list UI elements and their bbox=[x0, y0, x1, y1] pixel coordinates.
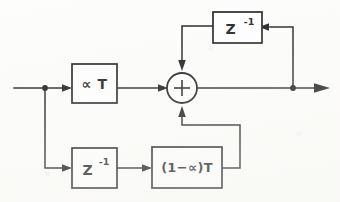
input-branch-node bbox=[42, 85, 48, 91]
block-diagram-canvas: ∝ T Z -1 Z -1 (1−∝)T bbox=[0, 0, 340, 202]
block-gain-one-minus-alpha-t[interactable]: (1−∝)T bbox=[152, 147, 222, 188]
arrow-head-icon bbox=[62, 84, 72, 92]
block-gain-one-minus-alpha-t-label: (1−∝)T bbox=[161, 160, 213, 175]
wire-gain-alpha-to-summer bbox=[117, 84, 168, 92]
block-delay-top-exponent: -1 bbox=[244, 16, 255, 27]
arrow-head-icon bbox=[142, 164, 152, 172]
block-delay-top-label: Z bbox=[226, 21, 237, 37]
wire-summer-to-output bbox=[197, 83, 330, 93]
block-delay-bottom[interactable]: Z -1 bbox=[72, 148, 117, 188]
block-gain-alpha-t-label: ∝ T bbox=[81, 76, 107, 92]
wire-delay-bottom-to-gain bbox=[117, 164, 152, 172]
arrow-head-icon bbox=[178, 106, 186, 117]
block-diagram-svg: ∝ T Z -1 Z -1 (1−∝)T bbox=[0, 0, 340, 202]
wire-delay-top-to-summer bbox=[178, 26, 213, 71]
block-gain-alpha-t[interactable]: ∝ T bbox=[72, 64, 117, 103]
wire-branch-to-gain-alpha bbox=[45, 84, 72, 92]
block-delay-bottom-label: Z bbox=[83, 162, 94, 178]
arrow-head-icon bbox=[314, 83, 330, 93]
block-delay-bottom-exponent: -1 bbox=[99, 156, 110, 167]
block-delay-top[interactable]: Z -1 bbox=[213, 12, 262, 43]
summing-junction[interactable] bbox=[167, 73, 197, 103]
output-branch-node bbox=[290, 85, 296, 91]
wire-branch-down-to-delay bbox=[45, 88, 72, 172]
arrow-head-icon bbox=[62, 164, 72, 172]
arrow-head-icon bbox=[178, 60, 186, 71]
wire-output-feedback-up bbox=[259, 23, 293, 88]
